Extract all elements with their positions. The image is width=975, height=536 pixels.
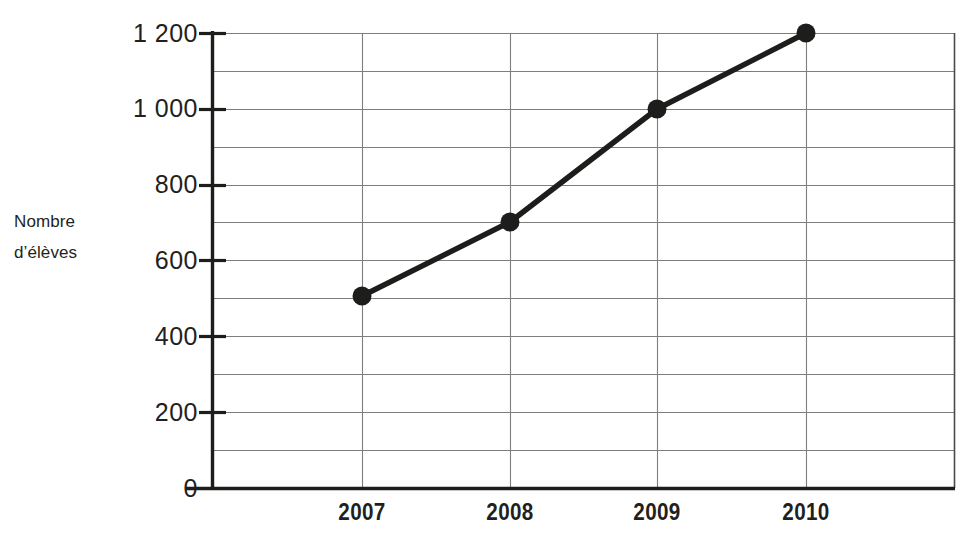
x-tick-label-2008: 2008 — [458, 498, 561, 526]
x-tick-label-2010: 2010 — [754, 498, 857, 526]
x-tick-label-2007: 2007 — [310, 498, 413, 526]
x-axis-tick-labels: 2007 2008 2009 2010 — [0, 0, 975, 536]
x-tick-label-2009: 2009 — [605, 498, 708, 526]
line-chart: Nombre d’élèves 1 200 1 000 800 600 400 … — [0, 0, 975, 536]
